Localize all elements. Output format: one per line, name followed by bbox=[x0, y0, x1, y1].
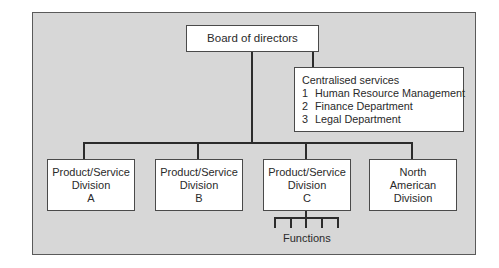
connector-division-na bbox=[411, 142, 413, 159]
division-line-1: North bbox=[400, 166, 427, 179]
board-label: Board of directors bbox=[207, 32, 298, 45]
centralised-service-item: 3 Legal Department bbox=[302, 113, 401, 126]
division-line-1: Product/Service bbox=[52, 166, 130, 179]
item-number: 2 bbox=[302, 100, 312, 113]
division-a-box: Product/Service Division A bbox=[47, 159, 135, 211]
item-number: 3 bbox=[302, 113, 312, 126]
board-of-directors-box: Board of directors bbox=[186, 25, 319, 52]
functions-branch-1 bbox=[274, 217, 276, 228]
division-c-box: Product/Service Division C bbox=[263, 159, 351, 211]
connector-division-a bbox=[83, 142, 85, 159]
division-bus-line bbox=[83, 142, 413, 144]
division-line-2: Division bbox=[72, 179, 111, 192]
division-line-2: Division bbox=[180, 179, 219, 192]
functions-branch-3 bbox=[321, 217, 323, 228]
connector-division-b bbox=[197, 142, 199, 159]
division-line-1: Product/Service bbox=[160, 166, 238, 179]
division-line-3: B bbox=[195, 192, 202, 205]
division-b-box: Product/Service Division B bbox=[155, 159, 243, 211]
item-label: Human Resource Management bbox=[315, 87, 465, 99]
functions-bar bbox=[274, 217, 338, 219]
item-label: Legal Department bbox=[315, 113, 401, 125]
functions-branch-2 bbox=[290, 217, 292, 228]
centralised-services-box: Centralised services 1 Human Resource Ma… bbox=[294, 67, 464, 132]
centralised-service-item: 1 Human Resource Management bbox=[302, 87, 465, 100]
functions-stem bbox=[305, 211, 307, 228]
connector-division-c bbox=[305, 142, 307, 159]
item-number: 1 bbox=[302, 87, 312, 100]
centralised-service-item: 2 Finance Department bbox=[302, 100, 413, 113]
division-line-2: American bbox=[390, 179, 436, 192]
functions-label: Functions bbox=[283, 232, 331, 244]
division-line-3: A bbox=[87, 192, 94, 205]
division-line-1: Product/Service bbox=[268, 166, 346, 179]
centralised-services-title: Centralised services bbox=[302, 74, 399, 87]
north-american-division-box: North American Division bbox=[369, 159, 457, 211]
division-line-2: Division bbox=[288, 179, 327, 192]
connector-board-to-bus bbox=[251, 52, 253, 143]
functions-branch-4 bbox=[337, 217, 339, 228]
connector-board-to-central bbox=[312, 52, 314, 67]
division-line-3: C bbox=[303, 192, 311, 205]
item-label: Finance Department bbox=[315, 100, 413, 112]
division-line-3: Division bbox=[394, 192, 433, 205]
